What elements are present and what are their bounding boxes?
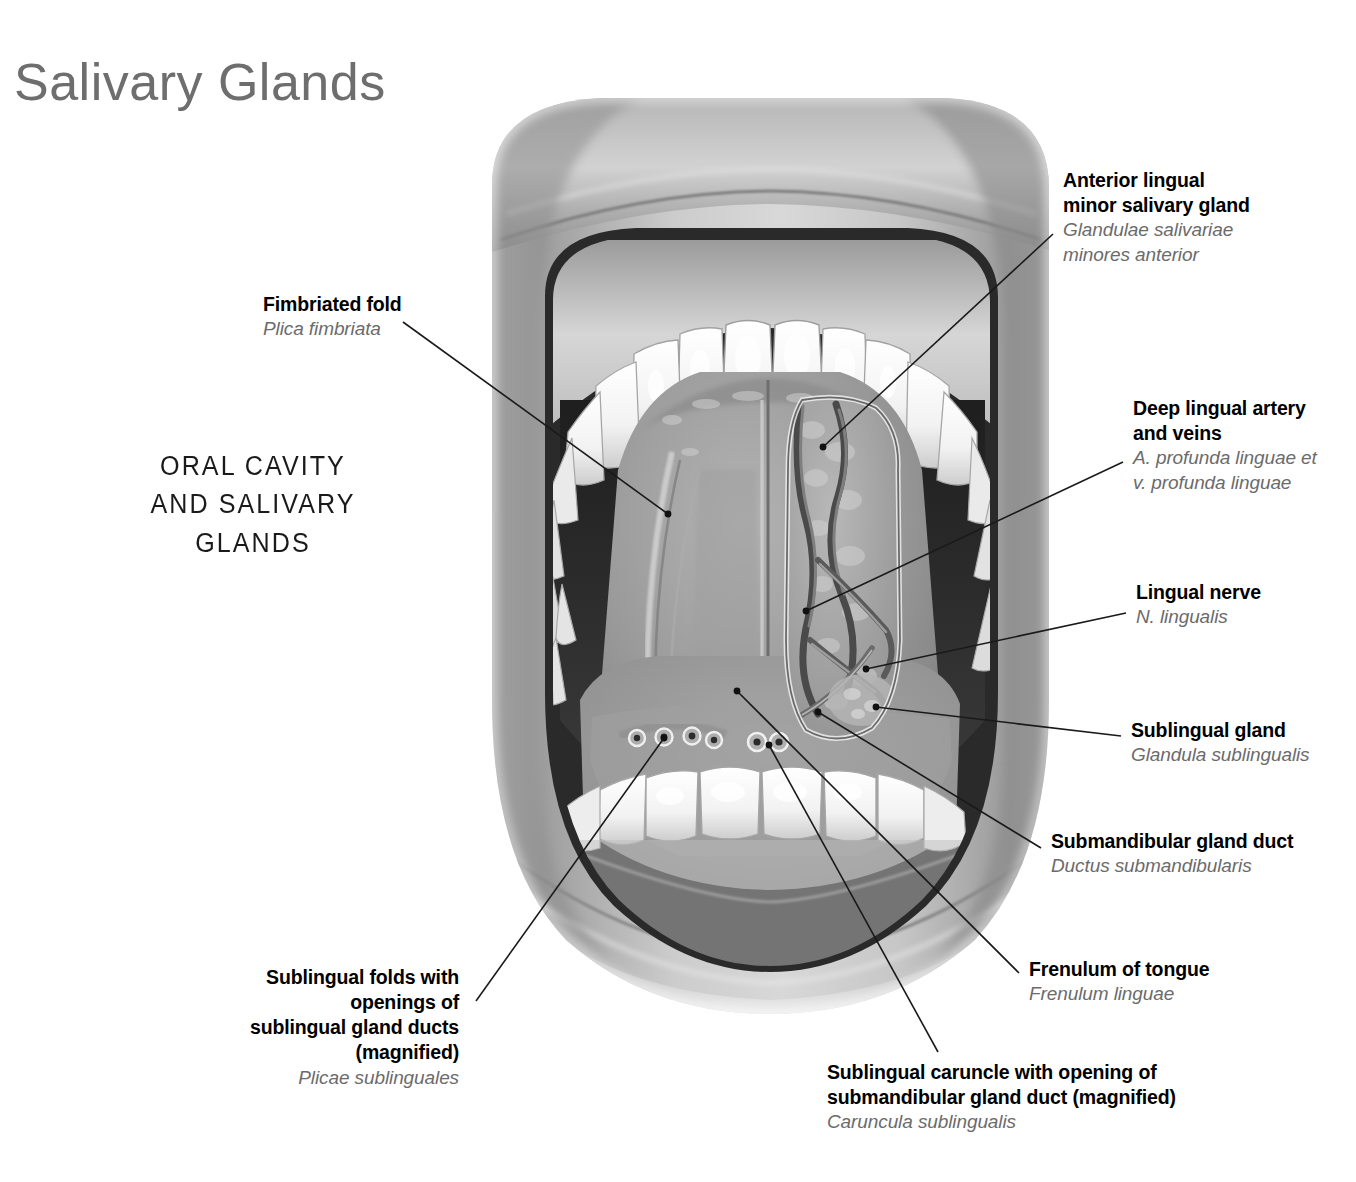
label-deep-lingual-artery-and-veins: Deep lingual artery and veinsA. profunda… <box>1133 396 1317 495</box>
label-submandibular-gland-duct: Submandibular gland ductDuctus submandib… <box>1051 829 1293 879</box>
label-sublingual-gland: Sublingual glandGlandula sublingualis <box>1131 718 1310 768</box>
label-sublingual-folds-with-openings-english: Sublingual folds with openings of sublin… <box>183 965 459 1066</box>
label-lingual-nerve-english: Lingual nerve <box>1136 580 1261 605</box>
label-sublingual-gland-latin: Glandula sublingualis <box>1131 743 1310 768</box>
label-anterior-lingual-minor-salivary-gland: Anterior lingual minor salivary glandGla… <box>1063 168 1250 267</box>
label-sublingual-folds-with-openings: Sublingual folds with openings of sublin… <box>183 965 459 1090</box>
label-submandibular-gland-duct-latin: Ductus submandibularis <box>1051 854 1293 879</box>
label-lingual-nerve: Lingual nerveN. lingualis <box>1136 580 1261 630</box>
label-lingual-nerve-latin: N. lingualis <box>1136 605 1261 630</box>
label-submandibular-gland-duct-english: Submandibular gland duct <box>1051 829 1293 854</box>
section-title: ORAL CAVITY AND SALIVARY GLANDS <box>127 447 378 562</box>
label-sublingual-caruncle-with-opening: Sublingual caruncle with opening of subm… <box>827 1060 1176 1135</box>
label-frenulum-of-tongue: Frenulum of tongueFrenulum linguae <box>1029 957 1209 1007</box>
label-fimbriated-fold-english: Fimbriated fold <box>263 292 402 317</box>
label-frenulum-of-tongue-latin: Frenulum linguae <box>1029 982 1209 1007</box>
label-fimbriated-fold: Fimbriated foldPlica fimbriata <box>263 292 402 342</box>
label-deep-lingual-artery-and-veins-english: Deep lingual artery and veins <box>1133 396 1317 446</box>
label-sublingual-gland-english: Sublingual gland <box>1131 718 1310 743</box>
label-anterior-lingual-minor-salivary-gland-english: Anterior lingual minor salivary gland <box>1063 168 1250 218</box>
label-sublingual-caruncle-with-opening-english: Sublingual caruncle with opening of subm… <box>827 1060 1176 1110</box>
label-fimbriated-fold-latin: Plica fimbriata <box>263 317 402 342</box>
diagram-page: Salivary Glands ORAL CAVITY AND SALIVARY… <box>0 0 1356 1182</box>
label-deep-lingual-artery-and-veins-latin: A. profunda linguae et v. profunda lingu… <box>1133 446 1317 495</box>
page-title: Salivary Glands <box>14 52 386 112</box>
label-sublingual-folds-with-openings-latin: Plicae sublinguales <box>183 1066 459 1091</box>
label-anterior-lingual-minor-salivary-gland-latin: Glandulae salivariae minores anterior <box>1063 218 1250 267</box>
label-sublingual-caruncle-with-opening-latin: Caruncula sublingualis <box>827 1110 1176 1135</box>
label-frenulum-of-tongue-english: Frenulum of tongue <box>1029 957 1209 982</box>
